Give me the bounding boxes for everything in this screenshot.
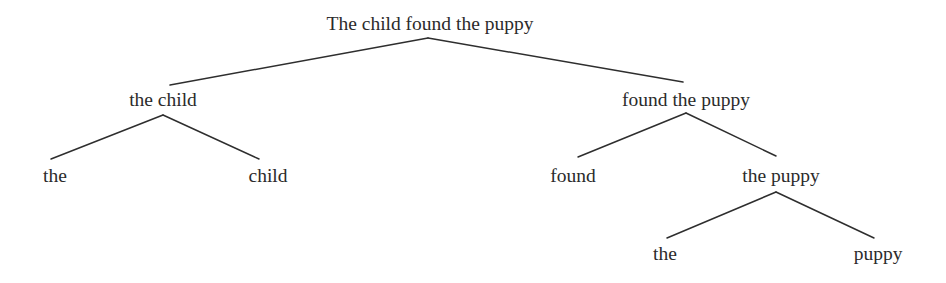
edge-root-to-found-the-puppy xyxy=(428,38,683,82)
constituency-tree: The child found the puppy the child foun… xyxy=(0,0,946,283)
root-node-label: The child found the puppy xyxy=(327,14,534,34)
tree-edges xyxy=(0,0,946,283)
edge-the-puppy-to-puppy xyxy=(776,192,874,238)
object-det-leaf-label: the xyxy=(653,244,677,264)
edge-the-puppy-to-the xyxy=(667,192,776,238)
subject-np-node-label: the child xyxy=(129,90,197,110)
edge-root-to-the-child xyxy=(170,38,428,85)
object-np-node-label: the puppy xyxy=(742,166,819,186)
object-noun-leaf-label: puppy xyxy=(854,244,903,264)
verb-leaf-label: found xyxy=(550,166,596,186)
edge-found-the-puppy-to-found xyxy=(578,113,686,157)
vp-node-label: found the puppy xyxy=(622,90,750,110)
subject-noun-leaf-label: child xyxy=(249,166,288,186)
edge-the-child-to-the xyxy=(51,115,163,159)
edge-found-the-puppy-to-the-puppy xyxy=(686,113,776,156)
edge-the-child-to-child xyxy=(163,115,259,159)
subject-det-leaf-label: the xyxy=(43,166,67,186)
